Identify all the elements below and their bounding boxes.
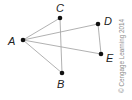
edge-a-e: [23, 40, 101, 54]
graph-diagram: ABCDE © Cengage Learning 2014: [0, 0, 132, 100]
edge-a-c: [23, 18, 60, 40]
node-b: [60, 71, 65, 76]
node-label-e: E: [106, 52, 114, 64]
copyright-text: © Cengage Learning 2014: [118, 19, 126, 93]
edge-d-e: [98, 24, 101, 54]
labels: ABCDE: [7, 2, 114, 90]
node-c: [58, 16, 63, 21]
node-d: [96, 22, 101, 27]
node-label-a: A: [7, 35, 15, 47]
node-label-c: C: [56, 2, 64, 14]
edges: [23, 18, 101, 73]
edge-a-b: [23, 40, 62, 73]
node-label-d: D: [104, 15, 112, 27]
node-label-b: B: [57, 78, 64, 90]
edge-c-b: [60, 18, 62, 73]
node-e: [99, 52, 104, 57]
node-a: [21, 38, 26, 43]
